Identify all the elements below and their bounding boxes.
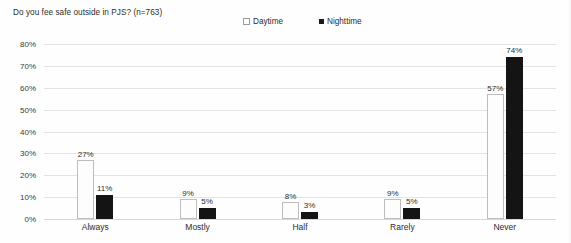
legend-swatch-nighttime-icon: [319, 19, 324, 24]
plot-area: 27%11%9%5%8%3%9%5%57%74%: [44, 44, 556, 219]
bar-always-nighttime[interactable]: 11%: [96, 195, 113, 219]
y-tick-label: 50%: [20, 105, 36, 114]
y-tick-label: 20%: [20, 171, 36, 180]
y-tick-label: 30%: [20, 149, 36, 158]
bar-rarely-nighttime[interactable]: 5%: [403, 208, 420, 219]
bar-value-label: 74%: [506, 46, 522, 55]
bar-value-label: 9%: [182, 189, 194, 198]
y-axis: 0%10%20%30%40%50%60%70%80%: [0, 44, 40, 219]
bar-value-label: 57%: [487, 84, 503, 93]
y-tick-label: 80%: [20, 40, 36, 49]
legend-item-daytime[interactable]: Daytime: [243, 17, 283, 26]
legend-label-nighttime: Nighttime: [327, 17, 362, 26]
gridline: [44, 219, 556, 220]
bar-mostly-daytime[interactable]: 9%: [180, 199, 197, 219]
bar-half-daytime[interactable]: 8%: [282, 202, 299, 220]
legend-item-nighttime[interactable]: Nighttime: [319, 17, 362, 26]
x-axis: AlwaysMostlyHalfRarelyNever: [44, 222, 556, 238]
bar-always-daytime[interactable]: 27%: [77, 160, 94, 219]
bar-half-nighttime[interactable]: 3%: [301, 212, 318, 219]
x-tick-label-rarely: Rarely: [390, 222, 415, 232]
bar-value-label: 27%: [78, 150, 94, 159]
x-tick-label-mostly: Mostly: [185, 222, 210, 232]
chart-legend: Daytime Nighttime: [243, 17, 362, 26]
y-tick-label: 10%: [20, 193, 36, 202]
x-tick-label-always: Always: [82, 222, 109, 232]
bar-value-label: 3%: [304, 201, 316, 210]
y-tick-label: 70%: [20, 61, 36, 70]
x-tick-label-never: Never: [493, 222, 516, 232]
bar-mostly-nighttime[interactable]: 5%: [199, 208, 216, 219]
bar-value-label: 9%: [387, 189, 399, 198]
y-tick-label: 40%: [20, 127, 36, 136]
y-tick-label: 60%: [20, 83, 36, 92]
bar-value-label: 5%: [406, 197, 418, 206]
bars-layer: 27%11%9%5%8%3%9%5%57%74%: [44, 44, 556, 219]
bar-value-label: 11%: [97, 184, 112, 193]
y-tick-label: 0%: [24, 215, 36, 224]
legend-label-daytime: Daytime: [253, 17, 283, 26]
bar-value-label: 5%: [201, 197, 213, 206]
bar-never-nighttime[interactable]: 74%: [506, 57, 523, 219]
bar-value-label: 8%: [285, 192, 297, 201]
bar-chart: Do you fee safe outside in PJS? (n=763) …: [0, 0, 571, 243]
x-tick-label-half: Half: [292, 222, 307, 232]
bar-never-daytime[interactable]: 57%: [487, 94, 504, 219]
bar-rarely-daytime[interactable]: 9%: [384, 199, 401, 219]
chart-title: Do you fee safe outside in PJS? (n=763): [13, 7, 162, 18]
legend-swatch-daytime-icon: [243, 18, 250, 25]
